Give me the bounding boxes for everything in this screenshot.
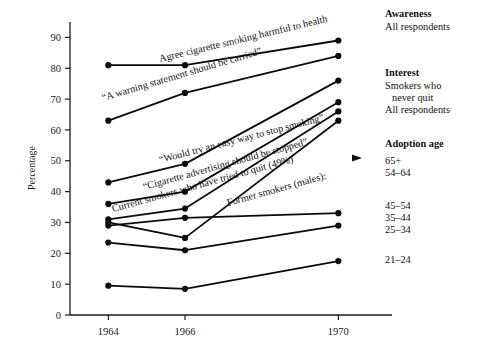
legend-item-interest-never-quit: never quit [385,92,433,103]
legend-heading-adoption-age: Adoption age [385,138,444,149]
legend-item-adoption-25-34: 25–34 [385,224,411,235]
legend-heading-awareness: Awareness [385,8,432,19]
legend-item-adoption-45-54: 45–54 [385,200,411,211]
data-point [182,215,188,221]
data-point [105,118,111,124]
series-inline-label: Current smokers who have tried to quit (… [111,153,295,215]
x-axis-ticks [108,315,338,320]
data-point [182,247,188,253]
data-point [105,222,111,228]
data-point [182,235,188,241]
y-tick-label: 70 [51,94,62,105]
data-point [105,62,111,68]
data-point [335,222,341,228]
y-tick-label: 0 [56,310,61,321]
x-tick-label: 1970 [328,326,349,337]
data-point [182,161,188,167]
data-point [105,179,111,185]
x-axis-tick-labels: 196419661970 [98,326,349,337]
y-axis-tick-labels: 0102030405060708090 [51,32,62,321]
series-line [108,261,338,289]
annotation-arrow-icon [352,155,362,162]
y-axis-title: Percentage [26,146,37,190]
legend-item-adoption-54-64: 54–64 [385,167,411,178]
legend-heading-interest: Interest [385,67,419,78]
data-point [105,239,111,245]
data-point [335,78,341,84]
legend-item-adoption-65plus: 65+ [385,155,401,166]
data-point [182,286,188,292]
y-tick-label: 30 [51,217,62,228]
legend-item-adoption-35-44: 35–44 [385,212,411,223]
data-point [335,37,341,43]
data-point [335,53,341,59]
y-tick-label: 20 [51,248,62,259]
data-point [335,258,341,264]
y-tick-label: 10 [51,279,62,290]
legend-item-interest-all-respondents: All respondents [385,104,450,115]
x-tick-label: 1966 [175,326,196,337]
y-axis-ticks [65,37,70,315]
data-point [105,283,111,289]
x-tick-label: 1964 [98,326,120,337]
data-point [182,205,188,211]
y-tick-label: 50 [51,155,62,166]
legend: Awareness All respondents Interest Smoke… [385,0,486,361]
data-point [335,108,341,114]
legend-item-awareness-all-respondents: All respondents [385,21,450,32]
data-point [335,210,341,216]
legend-item-interest-smokers-who: Smokers who [385,80,441,91]
y-tick-label: 60 [51,125,62,136]
inline-label-layer: Agree cigarette smoking harmful to healt… [100,13,328,215]
y-tick-label: 80 [51,63,62,74]
y-tick-label: 90 [51,32,62,43]
legend-item-adoption-21-24: 21–24 [385,254,411,265]
y-tick-label: 40 [51,186,62,197]
data-point [335,118,341,124]
chart-container: 0102030405060708090 196419661970 Percent… [0,0,486,361]
data-point [335,99,341,105]
data-point [182,90,188,96]
